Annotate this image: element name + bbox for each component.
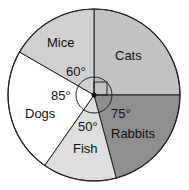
- label-cats: Cats: [115, 48, 142, 63]
- label-mice: Mice: [47, 35, 74, 50]
- label-fish: Fish: [73, 141, 98, 156]
- label-rabbits: Rabbits: [111, 126, 156, 141]
- pie-chart: Cats Mice Dogs Fish Rabbits 60° 85° 50° …: [0, 0, 189, 190]
- angle-label-dogs: 85°: [51, 88, 71, 103]
- label-dogs: Dogs: [25, 106, 56, 121]
- angle-label-fish: 50°: [78, 119, 98, 134]
- angle-label-mice: 60°: [66, 64, 86, 79]
- angle-label-rabbits: 75°: [111, 106, 131, 121]
- center-dot: [92, 93, 97, 98]
